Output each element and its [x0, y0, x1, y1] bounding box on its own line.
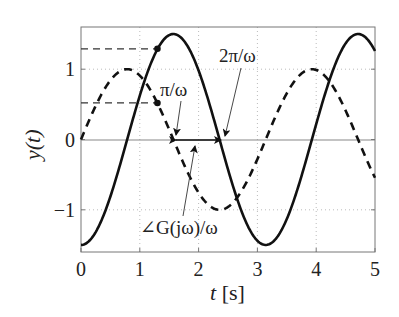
x-tick-label: 4: [311, 258, 321, 280]
x-tick-label: 3: [252, 258, 262, 280]
axis-ticks: [81, 69, 375, 252]
x-tick-label: 1: [135, 258, 145, 280]
y-axis-label: y(t): [20, 129, 45, 162]
pi-over-omega-label: π/ω: [160, 79, 187, 100]
data-point-marker: [154, 100, 161, 107]
x-axis-label: t [s]: [210, 280, 245, 305]
y-tick-label: 0: [65, 129, 75, 151]
tick-labels: 012345−101: [54, 58, 380, 280]
x-tick-label: 0: [76, 258, 86, 280]
x-tick-label: 2: [194, 258, 204, 280]
phase-label-arrow: [183, 146, 195, 216]
pi-over-omega-arrow: [176, 101, 181, 135]
y-tick-label: −1: [54, 199, 75, 221]
data-point-marker: [154, 45, 161, 52]
two-pi-over-omega-label: 2π/ω: [219, 45, 256, 66]
chart: 012345−101 π/ω 2π/ω ∠G(jω)/ω t [s] y(t): [0, 0, 399, 317]
phase-over-omega-label: ∠G(jω)/ω: [140, 217, 218, 239]
y-tick-label: 1: [65, 58, 75, 80]
x-tick-label: 5: [370, 258, 380, 280]
two-pi-over-omega-arrow: [225, 68, 241, 136]
